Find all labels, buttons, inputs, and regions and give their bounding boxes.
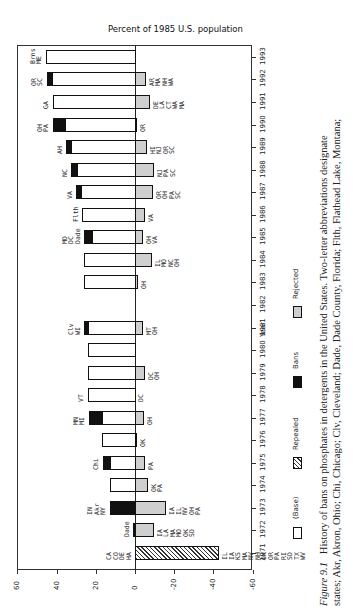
- year-tick-1990: [252, 125, 256, 126]
- bar-rejected-1990: [135, 118, 137, 132]
- percent-tick--40: [213, 570, 214, 574]
- state-label: AH: [57, 146, 64, 154]
- bar-base-1984: [84, 253, 136, 267]
- bar-rejected-1972: [135, 523, 154, 537]
- labels-below-1989: HINJORSC: [150, 140, 176, 154]
- labels-below-1983: OH: [141, 275, 148, 289]
- bar-base-1983: [84, 275, 136, 289]
- bar-base-1991: [53, 95, 136, 109]
- bar-base-1974: [110, 478, 136, 492]
- labels-above-1986: Flth: [73, 208, 80, 222]
- bar-rejected-1979: [135, 366, 145, 380]
- state-label: VA: [152, 236, 159, 244]
- year-label-1973: 1973: [259, 498, 267, 516]
- state-label: Chi: [93, 458, 100, 470]
- state-label: MA: [179, 101, 186, 109]
- legend-swatch-repealed: [293, 457, 302, 469]
- bar-rejected-1981: [135, 321, 143, 335]
- labels-above-1989: AH: [57, 140, 64, 154]
- labels-below-1973: IAILNVOHPA: [169, 501, 202, 515]
- state-label: VA: [148, 214, 155, 222]
- labels-above-1990: OHPA: [37, 118, 50, 132]
- year-tick-1993: [252, 57, 256, 58]
- year-tick-1980: [252, 350, 256, 351]
- labels-below-1984: ILMONCOH: [155, 253, 181, 267]
- labels-above-1973: INAkrNY: [87, 501, 107, 515]
- year-tick-1976: [252, 440, 256, 441]
- state-label: WV: [300, 552, 307, 560]
- bar-bans-1973: [110, 501, 136, 515]
- bar-repealed-1971: [135, 546, 219, 560]
- labels-below-1972: IALAMAMOOKSD: [157, 523, 196, 537]
- year-tick-1986: [252, 215, 256, 216]
- percent-label-40: 40: [53, 581, 61, 590]
- labels-above-1972: Dade: [124, 523, 131, 537]
- state-label: NC: [62, 169, 69, 177]
- legend-label-repealed: Repealed: [292, 417, 300, 450]
- year-label-1971: 1971: [259, 543, 267, 561]
- year-tick-1973: [252, 508, 256, 509]
- bar-base-1987: [81, 185, 136, 199]
- bar-rejected-1985: [135, 230, 143, 244]
- bar-rejected-1991: [135, 95, 150, 109]
- bar-bans-1977: [89, 411, 103, 425]
- year-label-1982: 1982: [259, 295, 267, 313]
- labels-below-1977: OH: [147, 411, 154, 425]
- legend-swatch-bans: [293, 376, 302, 388]
- bar-bans-1992: [47, 72, 53, 86]
- year-label-1987: 1987: [259, 182, 267, 200]
- bar-base-1979: [88, 366, 136, 380]
- state-label: HA: [126, 552, 133, 560]
- year-label-1985: 1985: [259, 227, 267, 245]
- year-label-1992: 1992: [259, 70, 267, 88]
- year-label-1993: 1993: [259, 47, 267, 65]
- legend-label-rejected: Rejected: [292, 269, 300, 299]
- percent-label-60: 60: [13, 581, 21, 590]
- percent-tick-0: [135, 570, 136, 574]
- labels-below-1974: OKPA: [151, 478, 164, 492]
- bar-base-1975: [110, 456, 136, 470]
- percent-tick--20: [174, 570, 175, 574]
- bar-rejected-1986: [135, 208, 145, 222]
- percent-tick--60: [253, 570, 254, 574]
- labels-below-1987: OROHPASC: [156, 185, 182, 199]
- year-tick-1978: [252, 395, 256, 396]
- state-label: ME: [36, 56, 43, 64]
- year-label-1990: 1990: [259, 115, 267, 133]
- year-tick-1992: [252, 79, 256, 80]
- state-label: SD: [189, 530, 196, 538]
- year-tick-1972: [252, 530, 256, 531]
- state-label: OH: [141, 282, 148, 290]
- bar-base-1986: [82, 208, 136, 222]
- bar-base-1993: [46, 50, 136, 64]
- year-axis-label: Year: [259, 322, 267, 337]
- state-label: PA: [43, 124, 50, 132]
- year-tick-1985: [252, 237, 256, 238]
- state-label: Flth: [73, 206, 80, 222]
- bar-rejected-1976: [135, 433, 137, 447]
- state-label: Dade: [124, 522, 131, 538]
- bar-bans-1987: [76, 185, 82, 199]
- bar-rejected-1984: [135, 253, 152, 267]
- year-label-1979: 1979: [259, 363, 267, 381]
- year-tick-1989: [252, 147, 256, 148]
- labels-below-1985: OHVA: [146, 230, 159, 244]
- year-tick-1977: [252, 418, 256, 419]
- labels-above-1991: GA: [43, 95, 50, 109]
- year-label-1989: 1989: [259, 137, 267, 155]
- figure-caption-label: Figure 9.1: [318, 562, 329, 606]
- percent-label--40: -40: [209, 579, 217, 590]
- labels-below-1979: DCOH: [148, 366, 161, 380]
- year-label-1988: 1988: [259, 160, 267, 178]
- legend-label-base: (Base): [292, 496, 300, 519]
- year-tick-1983: [252, 282, 256, 283]
- state-label: WI: [75, 327, 82, 335]
- year-label-1977: 1977: [259, 408, 267, 426]
- bar-base-1978: [88, 388, 136, 402]
- state-label: OH: [154, 372, 161, 380]
- legend-swatch-base: [293, 527, 302, 539]
- bar-base-1976: [102, 433, 136, 447]
- figure-caption-text: History of bans on phosphates in deterge…: [318, 135, 329, 554]
- bar-base-1992: [52, 72, 136, 86]
- state-label: SC: [170, 169, 177, 177]
